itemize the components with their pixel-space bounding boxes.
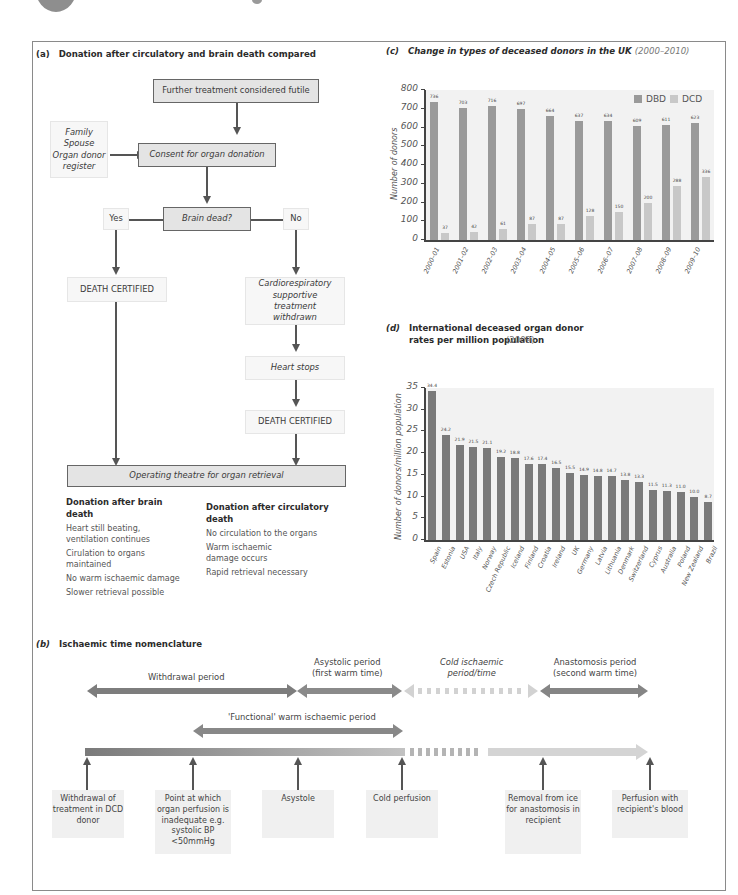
- chart-d-bar-label: 8.7: [698, 494, 718, 499]
- dcd-item: Rapid retrieval necessary: [206, 567, 356, 578]
- arrow-down-icon: [292, 267, 300, 275]
- label-withdrawal-period: Withdrawal period: [148, 672, 225, 683]
- chart-d-ytick: 25: [390, 424, 418, 434]
- chart-c-bar-dbd: [575, 121, 583, 240]
- dcd-item: Warm ischaemic damage occurs: [206, 542, 306, 564]
- node-heart-stops: Heart stops: [245, 356, 345, 380]
- label-anastomosis-period: Anastomosis period (second warm time): [553, 657, 637, 679]
- arrow-down-icon: [292, 344, 300, 352]
- chart-d-bar: [497, 457, 505, 540]
- arrow-withdrawal-period: [87, 688, 297, 694]
- chart-c-xlabel: 2004–05: [538, 246, 557, 275]
- dbd-item: No warm ischaemic damage: [66, 573, 181, 584]
- chart-d-ytick: 35: [390, 381, 418, 391]
- timeline-recipient-segment: [488, 748, 638, 756]
- chart-d-bar: [525, 464, 533, 540]
- chart-c-bar-label: 716: [482, 98, 502, 103]
- panel-c-letter: (c): [386, 46, 399, 56]
- label-line: Asystolic period: [312, 657, 383, 668]
- chart-c-xlabel: 2000–01: [422, 246, 441, 275]
- dbd-item: Slower retrieval possible: [66, 587, 181, 598]
- connector: [295, 325, 297, 345]
- node-brain-dead: Brain dead?: [163, 207, 251, 231]
- node-futile-label: Further treatment considered futile: [162, 85, 310, 96]
- label-asystolic-period: Asystolic period (first warm time): [312, 657, 383, 679]
- page-corner-badge: [35, 0, 77, 12]
- chart-c-bar-label: 200: [638, 195, 658, 200]
- chart-d-bar-label: 10.0: [684, 489, 704, 494]
- chart-d-bar: [649, 490, 657, 540]
- chart-c-bar-dcd: [673, 186, 681, 240]
- chart-d-bar: [483, 448, 491, 540]
- chart-c-xlabel: 2009–10: [683, 246, 702, 275]
- chart-c-ytick: 100: [390, 214, 418, 224]
- chart-c-bar-label: 150: [609, 204, 629, 209]
- chart-c-bar-dcd: [441, 233, 449, 240]
- chart-d-bar-label: 13.3: [629, 474, 649, 479]
- label-line: (second warm time): [553, 668, 637, 679]
- panel-d-subtitle: (2009): [506, 334, 535, 346]
- chart-c-bar-label: 703: [453, 100, 473, 105]
- node-withdrawn-label: Cardiorespiratory supportive treatment w…: [252, 278, 338, 323]
- chart-c-ytick: 200: [390, 196, 418, 206]
- chart-c-bar-label: 336: [696, 169, 716, 174]
- chart-d-bar: [566, 473, 574, 540]
- panel-d-title: (d) International deceased organ donor r…: [386, 322, 609, 347]
- label-line: period/time: [440, 668, 503, 679]
- chart-d-ytick: 15: [390, 468, 418, 478]
- chart-d-bar: [538, 464, 546, 540]
- event-pointer: [542, 762, 544, 790]
- dbd-heading: Donation after brain death: [66, 497, 181, 521]
- chart-c-bar-label: 634: [598, 113, 618, 118]
- chart-c-bar-label: 37: [435, 225, 455, 230]
- arrow-functional-warm-period: [193, 728, 403, 734]
- chart-d-bar: [608, 476, 616, 540]
- dcd-item: No circulation to the organs: [206, 528, 356, 539]
- connector: [115, 302, 117, 459]
- panel-b-title: (b) Ischaemic time nomenclature: [36, 639, 202, 649]
- chart-d-bar: [511, 458, 519, 540]
- connector: [295, 380, 297, 400]
- arrow-down-icon: [292, 399, 300, 407]
- event-pointer: [192, 762, 194, 790]
- panel-c-title-text: Change in types of deceased donors in th…: [408, 46, 632, 56]
- label-functional-warm-period: 'Functional' warm ischaemic period: [228, 712, 376, 723]
- node-death-certified-right: DEATH CERTIFIED: [245, 410, 345, 434]
- dcd-summary: Donation after circulatory death No circ…: [206, 502, 356, 581]
- chart-c-bar-dcd: [557, 224, 565, 240]
- chart-d-bar: [663, 491, 671, 540]
- timeline-cold-segment: [410, 748, 482, 756]
- arrow-anastomosis-period: [540, 688, 648, 694]
- chart-d-ytick: 0: [390, 533, 418, 543]
- panel-c-subtitle: (2000–2010): [635, 46, 690, 56]
- chart-c-xlabel: 2007–08: [625, 246, 644, 275]
- chart-c-bar-dbd: [633, 126, 641, 240]
- connector: [206, 167, 208, 197]
- node-consent-sources: Family Spouse Organ donor register: [50, 121, 108, 178]
- chart-c-xlabel: 2006–07: [596, 246, 615, 275]
- arrow-cold-ischaemic-period: [404, 688, 538, 694]
- chart-d-bar-label: 21.1: [477, 440, 497, 445]
- event-box: Withdrawal of treatment in DCD donor: [52, 790, 124, 838]
- node-consent-label: Consent for organ donation: [149, 149, 264, 160]
- chart-d-bar: [690, 497, 698, 540]
- chart-c-ytick: 300: [390, 177, 418, 187]
- chart-d-bar-label: 24.2: [436, 427, 456, 432]
- chart-d-bar: [428, 391, 436, 540]
- chart-c-bar-dcd: [615, 212, 623, 240]
- event-box: Perfusion with recipient's blood: [612, 790, 688, 838]
- node-no-label: No: [290, 213, 301, 224]
- chart-c-bar-dcd: [499, 229, 507, 240]
- chart-d-bar: [594, 476, 602, 540]
- panel-d-letter: (d): [386, 323, 400, 333]
- page-corner-mark: [252, 0, 262, 4]
- chart-c-bar-dcd: [586, 216, 594, 240]
- chart-d-bar: [580, 475, 588, 540]
- arrow-up-icon: [83, 757, 91, 765]
- label-line: Anastomosis period: [553, 657, 637, 668]
- chart-c-bar-label: 623: [685, 115, 705, 120]
- dbd-summary: Donation after brain death Heart still b…: [66, 497, 181, 602]
- panel-b-letter: (b): [36, 639, 50, 649]
- event-box: Cold perfusion: [366, 790, 438, 838]
- panel-c-title: (c) Change in types of deceased donors i…: [386, 46, 689, 56]
